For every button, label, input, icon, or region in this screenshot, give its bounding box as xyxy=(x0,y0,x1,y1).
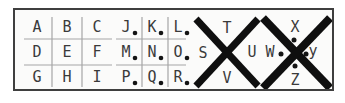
dot-x xyxy=(292,38,297,43)
dot-o xyxy=(185,56,190,61)
cipher-key-panel: A B C D E F G H I J K L M N O xyxy=(13,8,334,91)
letter-y: y xyxy=(308,42,317,60)
letter-c: C xyxy=(92,18,101,36)
dot-j xyxy=(133,31,138,36)
letter-u: U xyxy=(247,43,256,61)
dot-k xyxy=(159,31,164,36)
letter-l: L xyxy=(173,18,182,36)
letter-n: N xyxy=(147,43,156,61)
cross-wxyz-dotted: X W y Z xyxy=(263,18,330,89)
letter-v: V xyxy=(222,69,231,87)
letter-g: G xyxy=(32,68,41,86)
letter-q: Q xyxy=(147,68,156,86)
letter-a: A xyxy=(32,18,41,36)
letter-i: I xyxy=(92,68,101,86)
grid-jkl-dotted: J K L M N O P Q R xyxy=(116,17,189,87)
dot-l xyxy=(185,31,190,36)
letter-j: J xyxy=(121,18,130,36)
cipher-key-drawing: A B C D E F G H I J K L M N O xyxy=(15,10,332,89)
cross-stuv: T S U V xyxy=(196,19,258,87)
dot-y xyxy=(304,52,309,57)
letter-o: O xyxy=(173,43,182,61)
letter-t: T xyxy=(222,19,231,37)
letter-p: P xyxy=(121,68,130,86)
pigpen-cipher-key-image: A B C D E F G H I J K L M N O xyxy=(0,0,345,103)
letter-f: F xyxy=(92,43,101,61)
letter-h: H xyxy=(62,68,71,86)
letter-k: K xyxy=(147,18,156,36)
letter-b: B xyxy=(62,18,71,36)
dot-r xyxy=(185,81,190,86)
letter-x: X xyxy=(290,18,299,36)
letter-z: Z xyxy=(290,71,299,89)
dot-z xyxy=(293,64,298,69)
dot-p xyxy=(133,81,138,86)
letter-e: E xyxy=(62,43,71,61)
dot-m xyxy=(133,56,138,61)
dot-q xyxy=(159,81,164,86)
letter-s: S xyxy=(198,44,207,62)
letter-d: D xyxy=(32,43,41,61)
dot-w xyxy=(279,52,284,57)
grid-abc: A B C D E F G H I xyxy=(24,17,112,87)
letter-w: W xyxy=(265,43,275,61)
letter-m: M xyxy=(121,43,130,61)
dot-n xyxy=(159,56,164,61)
letter-r: R xyxy=(173,68,183,86)
